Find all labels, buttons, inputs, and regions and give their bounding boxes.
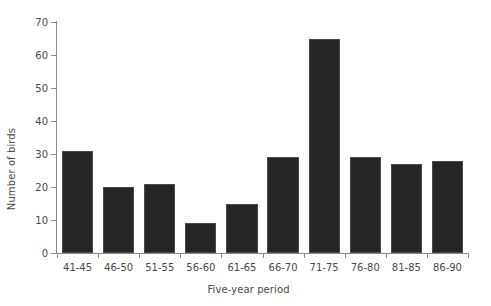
y-tick-label: 40 [4, 116, 57, 127]
x-axis-title-label: Five-year period [207, 284, 289, 295]
x-tick-label: 71-75 [310, 262, 339, 273]
x-tick-label: 46-50 [104, 262, 133, 273]
bar [62, 151, 93, 253]
y-tick-label: 30 [4, 149, 57, 160]
bar [432, 161, 463, 253]
x-tick-label: 61-65 [227, 262, 256, 273]
x-tick-mark [57, 253, 58, 258]
bar [103, 187, 134, 253]
y-tick-label: 0 [4, 248, 57, 259]
x-tick-label: 81-85 [392, 262, 421, 273]
y-axis-title-label: Number of birds [6, 128, 17, 210]
x-tick-mark [180, 253, 181, 258]
bar [185, 223, 216, 253]
bar [144, 184, 175, 253]
bar [226, 204, 257, 254]
x-tick-mark [386, 253, 387, 258]
x-tick-label: 51-55 [145, 262, 174, 273]
y-tick-label: 70 [4, 17, 57, 28]
x-tick-mark [139, 253, 140, 258]
y-tick-label: 50 [4, 83, 57, 94]
bar-chart: Number of birds 010203040506070 41-4546-… [0, 0, 491, 306]
x-tick-label: 56-60 [186, 262, 215, 273]
x-tick-mark [427, 253, 428, 258]
x-tick-label: 76-80 [351, 262, 380, 273]
x-tick-label: 41-45 [63, 262, 92, 273]
x-tick-mark [221, 253, 222, 258]
y-tick-label: 20 [4, 182, 57, 193]
x-tick-label: 86-90 [433, 262, 462, 273]
x-tick-mark [263, 253, 264, 258]
x-axis-title: Five-year period [0, 284, 491, 295]
bar [309, 39, 340, 254]
x-tick-mark [468, 253, 469, 258]
x-tick-mark [98, 253, 99, 258]
x-tick-mark [304, 253, 305, 258]
bar [350, 157, 381, 253]
y-tick-label: 10 [4, 215, 57, 226]
bar [267, 157, 298, 253]
x-tick-label: 66-70 [269, 262, 298, 273]
y-tick-label: 60 [4, 50, 57, 61]
x-tick-mark [345, 253, 346, 258]
plot-area [57, 22, 468, 253]
bar [391, 164, 422, 253]
